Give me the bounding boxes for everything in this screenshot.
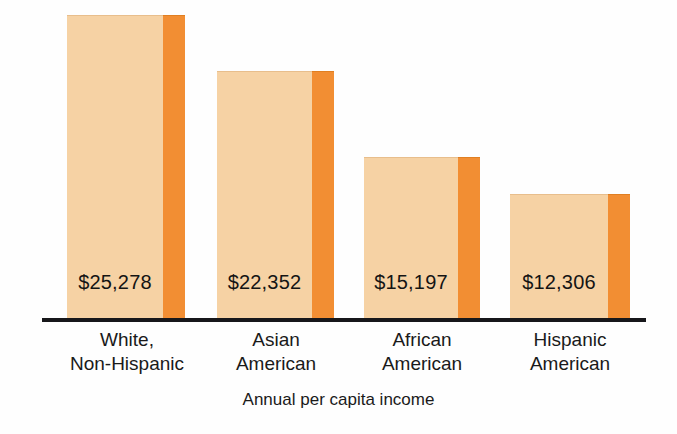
bar-highlight-stripe bbox=[312, 71, 334, 322]
bar-value-label: $25,278 bbox=[67, 272, 163, 292]
category-label-asian-american: Asian American bbox=[198, 328, 354, 376]
bar-white-non-hispanic: $25,278 bbox=[67, 15, 185, 322]
category-label-line1: White, bbox=[100, 329, 154, 350]
category-label-line2: American bbox=[492, 352, 648, 376]
category-label-hispanic-american: Hispanic American bbox=[492, 328, 648, 376]
category-label-line2: Non-Hispanic bbox=[42, 352, 212, 376]
bar-highlight-stripe bbox=[163, 15, 185, 322]
x-axis-title: Annual per capita income bbox=[0, 390, 677, 410]
bar-fill bbox=[510, 194, 608, 322]
plot-area: $25,278 $22,352 $15,197 $12,306 bbox=[0, 0, 677, 322]
x-axis-line bbox=[42, 318, 646, 322]
category-label-line1: African bbox=[392, 329, 451, 350]
category-label-line1: Asian bbox=[252, 329, 300, 350]
category-label-white-non-hispanic: White, Non-Hispanic bbox=[42, 328, 212, 376]
bar-hispanic-american: $12,306 bbox=[510, 194, 630, 322]
category-label-line2: American bbox=[198, 352, 354, 376]
bar-value-label: $15,197 bbox=[364, 272, 458, 292]
bar-value-label: $22,352 bbox=[217, 272, 312, 292]
bar-highlight-stripe bbox=[458, 157, 480, 322]
category-label-african-american: African American bbox=[344, 328, 500, 376]
bar-highlight-stripe bbox=[608, 194, 630, 322]
category-label-line1: Hispanic bbox=[534, 329, 607, 350]
bar-chart: $25,278 $22,352 $15,197 $12,306 White, N… bbox=[0, 0, 677, 434]
bar-african-american: $15,197 bbox=[364, 157, 480, 322]
bar-asian-american: $22,352 bbox=[217, 71, 334, 322]
bar-value-label: $12,306 bbox=[510, 272, 608, 292]
category-label-line2: American bbox=[344, 352, 500, 376]
bar-fill bbox=[364, 157, 458, 322]
